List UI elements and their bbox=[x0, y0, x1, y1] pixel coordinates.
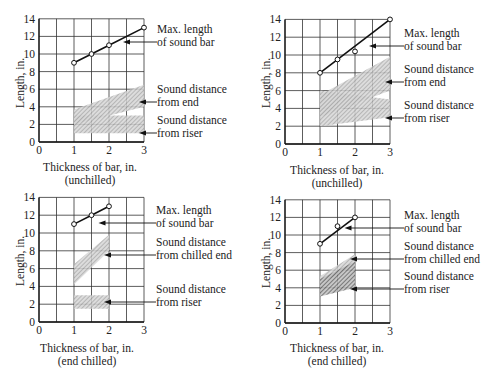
y-axis-label: Length, in. bbox=[260, 238, 272, 288]
svg-text:3: 3 bbox=[141, 324, 147, 336]
svg-text:0: 0 bbox=[275, 317, 281, 329]
svg-text:4: 4 bbox=[29, 101, 35, 113]
svg-text:2: 2 bbox=[352, 325, 358, 337]
svg-text:0: 0 bbox=[282, 146, 288, 158]
svg-text:2: 2 bbox=[275, 120, 281, 132]
data-point bbox=[142, 25, 147, 30]
data-point bbox=[72, 222, 77, 227]
svg-text:14: 14 bbox=[24, 13, 36, 25]
svg-text:8: 8 bbox=[29, 66, 35, 78]
svg-text:0: 0 bbox=[29, 136, 35, 148]
annotation-from-riser: Sound distancefrom riser bbox=[157, 114, 227, 139]
svg-text:3: 3 bbox=[141, 144, 147, 156]
data-point bbox=[318, 241, 323, 246]
svg-text:6: 6 bbox=[29, 263, 35, 275]
band-1 bbox=[320, 91, 390, 127]
annotation-max-length: Max. lengthof sound bar bbox=[404, 209, 462, 234]
svg-text:0: 0 bbox=[36, 324, 42, 336]
data-point bbox=[335, 224, 340, 229]
data-point bbox=[353, 49, 358, 54]
svg-text:0: 0 bbox=[36, 144, 42, 156]
svg-text:6: 6 bbox=[275, 85, 281, 97]
data-point bbox=[335, 57, 340, 62]
chart-bottom-right: 012302468101214 Max. lengthof sound bar … bbox=[240, 190, 480, 382]
annotation-from-end: Sound distancefrom end bbox=[404, 63, 474, 88]
svg-text:1: 1 bbox=[71, 144, 77, 156]
band-1 bbox=[74, 116, 144, 134]
svg-text:14: 14 bbox=[24, 191, 36, 203]
svg-text:12: 12 bbox=[270, 211, 282, 223]
data-point bbox=[107, 43, 112, 48]
svg-text:2: 2 bbox=[352, 146, 358, 158]
svg-text:6: 6 bbox=[275, 264, 281, 276]
svg-text:4: 4 bbox=[275, 282, 281, 294]
x-axis-label: Thickness of bar, in.(unchilled) bbox=[15, 161, 165, 187]
annotation-max-length: Max. lengthof sound bar bbox=[404, 27, 462, 52]
svg-text:0: 0 bbox=[29, 316, 35, 328]
x-axis-label: Thickness of bar, in.(end chilled) bbox=[12, 342, 162, 368]
svg-text:12: 12 bbox=[24, 209, 36, 221]
annotation-from-riser: Sound distancefrom riser bbox=[156, 283, 226, 308]
svg-text:2: 2 bbox=[106, 144, 112, 156]
data-point bbox=[107, 204, 112, 209]
data-point bbox=[89, 52, 94, 57]
svg-text:8: 8 bbox=[275, 67, 281, 79]
svg-text:3: 3 bbox=[387, 146, 393, 158]
svg-text:14: 14 bbox=[270, 194, 282, 206]
band-1 bbox=[74, 295, 109, 308]
svg-text:6: 6 bbox=[29, 83, 35, 95]
svg-text:1: 1 bbox=[71, 324, 77, 336]
annotation-from-riser: Sound distancefrom riser bbox=[404, 99, 474, 124]
chart-top-left: 012302468101214 Max. lengthof sound bar … bbox=[0, 0, 240, 192]
annotation-from-end: Sound distancefrom end bbox=[157, 83, 227, 108]
svg-text:3: 3 bbox=[387, 325, 393, 337]
svg-text:12: 12 bbox=[24, 30, 36, 42]
annotation-from-riser: Sound distancefrom riser bbox=[404, 270, 474, 295]
grid bbox=[285, 200, 390, 323]
chart-top-right: 012302468101214 Max. lengthof sound bar … bbox=[240, 0, 480, 192]
svg-text:0: 0 bbox=[275, 138, 281, 150]
svg-text:1: 1 bbox=[317, 146, 323, 158]
y-axis-label: Length, in. bbox=[14, 236, 26, 286]
annotation-max-length: Max. lengthof sound bar bbox=[157, 23, 215, 48]
arrow-icon bbox=[345, 226, 352, 231]
annotation-max-length: Max. lengthof sound bar bbox=[156, 204, 214, 229]
svg-text:8: 8 bbox=[29, 245, 35, 257]
arrow-icon bbox=[99, 221, 106, 226]
svg-text:14: 14 bbox=[270, 13, 282, 25]
svg-text:12: 12 bbox=[270, 31, 282, 43]
x-axis-label: Thickness of bar, in.(unchilled) bbox=[262, 164, 412, 190]
svg-text:2: 2 bbox=[29, 118, 35, 130]
svg-text:4: 4 bbox=[275, 102, 281, 114]
svg-text:4: 4 bbox=[29, 280, 35, 292]
svg-text:1: 1 bbox=[317, 325, 323, 337]
data-point bbox=[353, 215, 358, 220]
svg-text:8: 8 bbox=[275, 247, 281, 259]
svg-text:0: 0 bbox=[282, 325, 288, 337]
data-point bbox=[72, 60, 77, 65]
svg-text:2: 2 bbox=[106, 324, 112, 336]
data-point bbox=[388, 17, 393, 22]
x-axis-label: Thickness of bar, in.(end chilled) bbox=[262, 342, 412, 368]
y-axis-label: Length, in. bbox=[14, 58, 26, 108]
y-axis-label: Length, in. bbox=[260, 58, 272, 108]
data-point bbox=[89, 213, 94, 218]
annotation-from-chilled-end: Sound distancefrom chilled end bbox=[156, 236, 232, 261]
svg-text:2: 2 bbox=[29, 298, 35, 310]
annotation-from-chilled-end: Sound distancefrom chilled end bbox=[404, 240, 480, 265]
chart-bottom-left: 012302468101214 Max. lengthof sound bar … bbox=[0, 190, 240, 382]
data-point bbox=[318, 70, 323, 75]
svg-text:2: 2 bbox=[275, 299, 281, 311]
